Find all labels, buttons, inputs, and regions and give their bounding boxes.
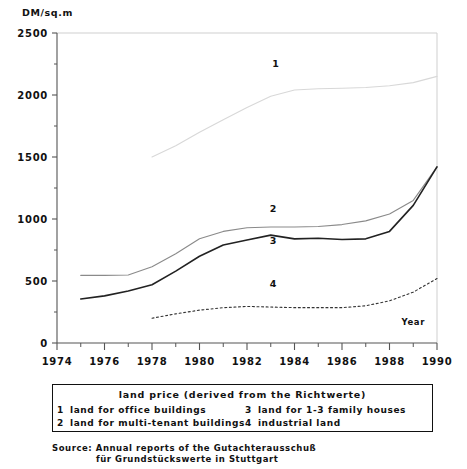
- legend-label-2: land for multi-tenant buildings: [70, 417, 245, 430]
- y-axis-tick-label: 2500: [17, 28, 48, 39]
- y-axis-tick-label: 2000: [17, 90, 48, 101]
- legend-item-4: 4 industrial land: [245, 417, 428, 430]
- series-line-2: [81, 167, 437, 276]
- legend-label-1: land for office buildings: [70, 404, 206, 417]
- y-axis-tick-label: 500: [25, 276, 48, 287]
- source-line-1: Source: Annual reports of the Gutachtera…: [52, 443, 452, 454]
- x-axis-tick-label: 1982: [232, 356, 263, 367]
- y-axis-tick-label: 1500: [17, 152, 48, 163]
- series-label-3: 3: [270, 235, 277, 246]
- y-axis-title: DM/sq.m: [22, 7, 73, 18]
- x-axis-tick-label: 1978: [137, 356, 168, 367]
- legend-title: land price (derived from the Richtwerte): [53, 389, 432, 400]
- legend-entries: 1 land for office buildings 3 land for 1…: [53, 404, 432, 430]
- source-line-2: für Grundstückswerte in Stuttgart: [52, 454, 452, 465]
- x-axis-tick-label: 1990: [422, 356, 453, 367]
- legend-label-3: land for 1-3 family houses: [258, 404, 406, 417]
- legend-key-1: 1: [57, 404, 70, 417]
- legend-key-4: 4: [245, 417, 258, 430]
- legend-item-3: 3 land for 1-3 family houses: [245, 404, 428, 417]
- legend-box: land price (derived from the Richtwerte)…: [52, 384, 433, 432]
- series-label-2: 2: [270, 203, 277, 214]
- y-axis-tick-label: 1000: [17, 214, 48, 225]
- plot-area-border: [57, 33, 437, 343]
- series-label-4: 4: [270, 278, 277, 289]
- legend-key-2: 2: [57, 417, 70, 430]
- x-axis-tick-label: 1976: [89, 356, 120, 367]
- x-axis-tick-label: 1984: [279, 356, 310, 367]
- series-line-3: [81, 167, 437, 299]
- legend-label-4: industrial land: [258, 417, 341, 430]
- series-line-4: [152, 279, 437, 319]
- source-note: Source: Annual reports of the Gutachtera…: [52, 443, 452, 465]
- x-axis-tick-label: 1980: [184, 356, 215, 367]
- x-axis-tick-label: 1988: [374, 356, 405, 367]
- legend-item-2: 2 land for multi-tenant buildings: [57, 417, 245, 430]
- x-axis-tick-label: 1986: [327, 356, 358, 367]
- legend-key-3: 3: [245, 404, 258, 417]
- series-label-1: 1: [272, 58, 279, 69]
- series-line-1: [152, 76, 437, 157]
- y-axis-tick-label: 0: [40, 338, 48, 349]
- legend-item-1: 1 land for office buildings: [57, 404, 245, 417]
- x-axis-tick-label: 1974: [42, 356, 73, 367]
- x-axis-title: Year: [401, 317, 426, 327]
